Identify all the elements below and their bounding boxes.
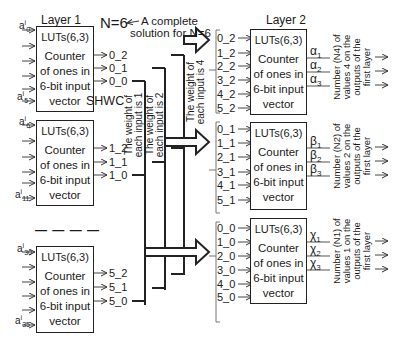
layer2-lut-block-alpha: LUTs(6,3) Counter of ones in 6-bit input… (250, 29, 307, 115)
desc-line: 6-bit input (251, 271, 306, 286)
desc-line: vector (37, 188, 93, 203)
desc-line: of ones in (251, 160, 306, 175)
desc-line: of ones in (37, 64, 93, 79)
desc-line: vector (37, 314, 93, 329)
note-line-1: A complete (141, 15, 198, 27)
greek-symbol: α (310, 44, 317, 58)
lut-label: LUTs(6,3) (37, 31, 93, 43)
sup-i: i (25, 115, 27, 122)
note-line: first layer (362, 211, 372, 291)
lut-description: Counter of ones in 6-bit input vector (37, 143, 93, 203)
lut-label: LUTs(6,3) (251, 223, 306, 235)
l2-input-label: 0_0 (217, 222, 235, 234)
desc-line: Counter (251, 52, 306, 67)
lut-description: Counter of ones in 6-bit input vector (37, 49, 93, 109)
sub-index: 3 (317, 169, 321, 178)
bus-label-line: each input is 2 (155, 75, 165, 175)
desc-line: vector (251, 190, 306, 205)
ellipsis-separator: — — — — (35, 224, 100, 236)
greek-symbol: α (310, 72, 317, 86)
l2-input-label: 4_0 (217, 278, 235, 290)
input-a11-label: ai11 (15, 186, 29, 205)
desc-line: Counter (251, 145, 306, 160)
shwc-label: SHWC (86, 95, 124, 107)
sub-index: 0 (26, 26, 30, 33)
note-line-2: solution for N=6 (130, 27, 211, 39)
l2-input-label: 0_2 (217, 32, 235, 44)
n4-note: Number (N4) of values 4 on the outputs o… (332, 27, 372, 107)
desc-line: of ones in (37, 158, 93, 173)
desc-line: vector (251, 97, 306, 112)
desc-line: Counter (37, 143, 93, 158)
sub-index: 5 (24, 97, 28, 104)
lut-description: Counter of ones in 6-bit input vector (37, 269, 93, 329)
sup-i: i (23, 242, 25, 249)
desc-line: 6-bit input (37, 79, 93, 94)
desc-line: 6-bit input (37, 299, 93, 314)
desc-line: Counter (37, 49, 93, 64)
layer1-lut-block-2: LUTs(6,3) Counter of ones in 6-bit input… (36, 246, 94, 333)
l2-input-label: 1_1 (217, 137, 235, 149)
bus-label-weight-2: The weight of each input is 2 (145, 75, 165, 175)
desc-line: Counter (37, 269, 93, 284)
l2-input-label: 5_2 (217, 102, 235, 114)
desc-line: vector (37, 94, 93, 109)
lut-label: LUTs(6,3) (251, 127, 306, 139)
bus-label-line: each input is 4 (196, 42, 206, 142)
bus-label-line: each input is 1 (134, 75, 144, 175)
sub-index: 11 (22, 195, 29, 202)
l2-input-label: 5_0 (217, 291, 235, 303)
n1-note: Number (N1) of values 1 on the outputs o… (332, 211, 372, 291)
note-line: first layer (362, 27, 372, 107)
l2-input-label: 2_0 (217, 250, 235, 262)
output-label: 0_2 (109, 49, 127, 61)
sub-index: 30 (24, 249, 32, 256)
desc-line: Counter (251, 241, 306, 256)
lut-description: Counter of ones in 6-bit input vector (251, 145, 306, 205)
greek-symbol: α (310, 58, 317, 72)
sup-i: i (21, 314, 23, 321)
sub-index: 35 (22, 321, 30, 328)
output-label: 5_2 (109, 267, 127, 279)
greek-symbol: β (310, 162, 317, 176)
l2-input-label: 5_1 (217, 194, 235, 206)
sup-i: i (21, 188, 23, 195)
desc-line: of ones in (37, 284, 93, 299)
desc-line: 6-bit input (251, 82, 306, 97)
beta-3-output: β3 (310, 163, 321, 180)
layer2-lut-block-chi: LUTs(6,3) Counter of ones in 6-bit input… (250, 218, 307, 304)
note-line: first layer (362, 116, 372, 196)
lut-label: LUTs(6,3) (37, 251, 93, 263)
sub-index: 6 (26, 122, 30, 129)
n2-note: Number (N2) of values 2 on the outputs o… (332, 116, 372, 196)
sub-index: 3 (316, 263, 320, 272)
desc-line: 6-bit input (37, 173, 93, 188)
l2-input-label: 1_2 (217, 47, 235, 59)
desc-line: of ones in (251, 256, 306, 271)
bus-label-weight-4: The weight of each input is 4 (186, 42, 206, 142)
output-label: 0_1 (109, 62, 127, 74)
layer1-lut-block-1: LUTs(6,3) Counter of ones in 6-bit input… (36, 120, 94, 206)
l2-input-label: 4_1 (217, 179, 235, 191)
sup-i: i (23, 90, 25, 97)
lut-description: Counter of ones in 6-bit input vector (251, 241, 306, 301)
layer2-label: Layer 2 (266, 14, 306, 26)
sup-i: i (25, 19, 27, 26)
n-value-label: N=6 (100, 15, 128, 31)
l2-input-label: 3_2 (217, 74, 235, 86)
input-a30-label: ai30 (17, 240, 32, 259)
l2-input-label: 3_1 (217, 166, 235, 178)
l2-input-label: 2_2 (217, 60, 235, 72)
l2-input-label: 1_0 (217, 236, 235, 248)
l2-input-label: 4_2 (217, 88, 235, 100)
sub-index: 3 (317, 79, 321, 88)
alpha-3-output: α3 (310, 73, 321, 90)
desc-line: vector (251, 286, 306, 301)
greek-symbol: β (310, 148, 317, 162)
l2-input-label: 3_0 (217, 264, 235, 276)
input-a35-label: ai35 (15, 312, 30, 331)
layer1-label: Layer 1 (41, 14, 81, 26)
chi-3-output: χ3 (310, 257, 321, 274)
lut-label: LUTs(6,3) (251, 34, 306, 46)
greek-symbol: β (310, 134, 317, 148)
